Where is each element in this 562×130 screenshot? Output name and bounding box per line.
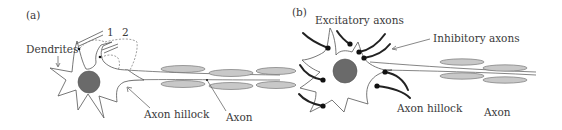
axon-arrow-a-tip <box>206 79 208 81</box>
dashed-path-2 <box>105 39 137 70</box>
inhibitory-axons-label: Inhibitory axons <box>433 32 520 44</box>
nucleus-icon <box>78 71 100 93</box>
electrode-1-label: 1 <box>107 26 114 38</box>
panel-b-label: (b) <box>292 6 307 18</box>
axon-hillock-label-a: Axon hillock <box>143 108 210 120</box>
myelin-sheaths-a <box>161 66 296 90</box>
inhibitory-axons-arrow <box>393 39 430 49</box>
dendrites-label: Dendrites <box>26 43 78 55</box>
electrode-2-label: 2 <box>122 26 129 38</box>
neuron-diagram-figure: (a) 1 <box>0 0 562 130</box>
axon-hillock-label-b: Axon hillock <box>396 102 463 114</box>
myelin-sheaths-b <box>440 59 527 83</box>
electrode-2-tip <box>99 56 102 59</box>
excitatory-axons-label: Excitatory axons <box>315 14 404 26</box>
axon-label-a: Axon <box>225 111 253 123</box>
panel-b: (b) Excitatory axons Inhibitory axons <box>292 6 536 118</box>
panel-a: (a) 1 <box>26 9 296 123</box>
panel-a-label: (a) <box>26 9 40 21</box>
axon-label-b: Axon <box>483 106 511 118</box>
axon-hillock-arrow-a <box>128 88 150 108</box>
electrode-1 <box>76 31 103 46</box>
nucleus-icon-b <box>333 59 357 83</box>
diagram-svg: (a) 1 <box>0 0 562 130</box>
